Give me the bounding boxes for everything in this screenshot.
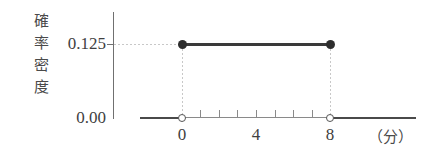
x-axis-minor-tick xyxy=(256,110,257,117)
x-axis-minor-tick xyxy=(275,110,276,117)
y-axis-title: 確 率 密 度 xyxy=(29,10,53,98)
y-axis-tick-0125 xyxy=(107,44,114,45)
open-point-marker xyxy=(326,114,334,122)
x-axis-minor-tick xyxy=(200,110,201,117)
x-axis-minor-tick xyxy=(237,110,238,117)
x-tick-label-8: 8 xyxy=(315,125,345,145)
x-axis-line-middle xyxy=(182,117,331,118)
x-axis-line-right xyxy=(330,117,416,119)
y-tick-label-000: 0.00 xyxy=(6,108,106,128)
x-axis-minor-tick xyxy=(312,110,313,117)
dropline-x0 xyxy=(182,45,183,117)
probability-density-chart: 確 率 密 度 0.125 0.00 0 4 8 （分） xyxy=(0,0,427,158)
open-point-marker xyxy=(178,114,186,122)
x-axis-unit-label: （分） xyxy=(368,125,413,146)
x-axis-minor-tick xyxy=(219,110,220,117)
y-axis-line xyxy=(113,12,114,119)
closed-point-marker xyxy=(326,40,335,49)
dropline-x8 xyxy=(330,45,331,117)
x-axis-line-left xyxy=(140,117,183,119)
x-axis-minor-tick xyxy=(293,110,294,117)
x-tick-label-4: 4 xyxy=(241,125,271,145)
density-segment xyxy=(182,43,330,46)
x-tick-label-0: 0 xyxy=(167,125,197,145)
gridline-horizontal-0125 xyxy=(114,44,182,45)
closed-point-marker xyxy=(178,40,187,49)
y-tick-label-0125: 0.125 xyxy=(6,34,106,54)
